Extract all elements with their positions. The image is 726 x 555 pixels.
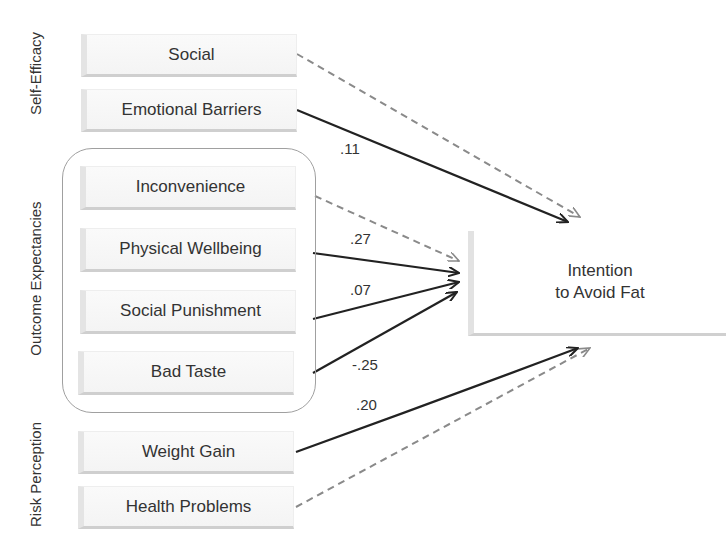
- node-intention-to-avoid-fat: Intention to Avoid Fat: [468, 231, 726, 336]
- target-line-2: to Avoid Fat: [555, 282, 644, 304]
- arrow-physical-wellbeing: [313, 253, 459, 273]
- node-emotional-barriers: Emotional Barriers: [81, 89, 297, 132]
- coefficient-physical-wellbeing: .27: [350, 230, 371, 247]
- node-bad-taste: Bad Taste: [78, 351, 294, 395]
- node-health-problems: Health Problems: [78, 486, 294, 529]
- coefficient-social-punishment: .07: [350, 281, 371, 298]
- arrow-bad-taste: [313, 292, 457, 373]
- node-inconvenience: Inconvenience: [80, 166, 296, 210]
- coefficient-bad-taste: -.25: [352, 356, 378, 373]
- arrow-social-punishment: [313, 282, 459, 319]
- node-social: Social: [81, 34, 297, 77]
- coefficient-emotional-barriers: .11: [340, 140, 360, 157]
- node-social-punishment: Social Punishment: [80, 290, 296, 334]
- group-label-outcome-expectancies: Outcome Expectancies: [27, 194, 44, 364]
- arrow-social: [297, 54, 580, 217]
- node-weight-gain: Weight Gain: [78, 431, 294, 474]
- coefficient-weight-gain: .20: [356, 396, 377, 413]
- group-label-self-efficacy: Self-Efficacy: [27, 19, 44, 129]
- group-label-risk-perception: Risk Perception: [27, 405, 44, 545]
- arrow-health-problems: [296, 348, 590, 507]
- target-line-1: Intention: [555, 260, 644, 282]
- arrow-inconvenience: [315, 196, 459, 261]
- node-physical-wellbeing: Physical Wellbeing: [80, 228, 296, 272]
- arrow-weight-gain: [296, 348, 578, 452]
